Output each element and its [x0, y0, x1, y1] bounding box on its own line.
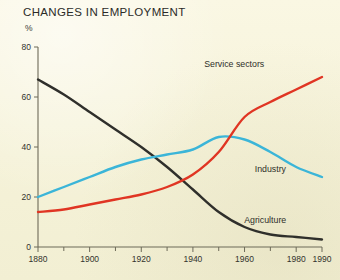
- y-axis-ticks: 020406080: [22, 42, 38, 252]
- chart-screenshot: CHANGES IN EMPLOYMENT % 020406080 188019…: [0, 0, 340, 280]
- line-chart-plot: 020406080 1880190019201940196019801990 A…: [0, 0, 340, 280]
- x-tick-label: 1960: [235, 254, 254, 264]
- y-tick-label: 60: [22, 92, 32, 102]
- series-line-service-sectors: [38, 77, 322, 212]
- x-tick-label: 1990: [313, 254, 332, 264]
- y-tick-label: 20: [22, 192, 32, 202]
- y-tick-label: 80: [22, 42, 32, 52]
- series-label-agriculture: Agriculture: [244, 215, 286, 225]
- y-tick-label: 0: [26, 242, 31, 252]
- x-tick-label: 1900: [80, 254, 99, 264]
- y-tick-label: 40: [22, 142, 32, 152]
- x-axis-ticks: 1880190019201940196019801990: [29, 247, 332, 264]
- x-tick-label: 1920: [132, 254, 151, 264]
- x-tick-label: 1880: [29, 254, 48, 264]
- series-annotations: AgricultureIndustryService sectors: [204, 59, 286, 225]
- x-tick-label: 1940: [183, 254, 202, 264]
- series-label-service-sectors: Service sectors: [204, 59, 265, 69]
- series-label-industry: Industry: [255, 164, 287, 174]
- x-tick-label: 1980: [287, 254, 306, 264]
